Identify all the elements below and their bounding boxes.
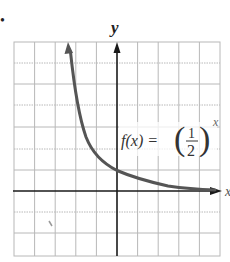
curve-arrow-icon (65, 42, 74, 54)
fraction-denominator: 2 (187, 142, 195, 159)
function-label: f(x) = ( 1 2 ) x (119, 115, 219, 159)
stray-mark (49, 221, 52, 226)
function-curve (71, 52, 216, 190)
y-axis-label: y (109, 18, 119, 37)
right-paren: ) (199, 120, 210, 158)
exponent: x (212, 115, 219, 129)
fraction-numerator: 1 (188, 126, 195, 141)
function-label-lhs: f(x) = (121, 132, 158, 150)
exponential-graph-figure: • y x f(x) = ( 1 2 (0, 0, 230, 262)
y-axis-arrow-icon (114, 42, 121, 53)
problem-bullet: • (0, 13, 5, 28)
left-paren: ( (174, 120, 185, 158)
x-axis-label: x (224, 184, 230, 199)
